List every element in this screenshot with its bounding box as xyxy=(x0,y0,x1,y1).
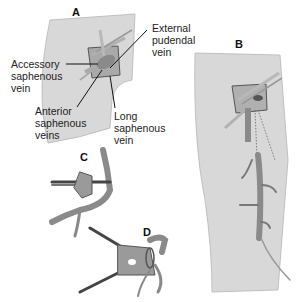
label-anterior-saphenous-veins: Anterior saphenous veins xyxy=(35,105,86,141)
diagram-canvas xyxy=(0,0,297,302)
label-external-pudendal-vein: External pudendal vein xyxy=(152,22,195,58)
panel-d-letter: D xyxy=(143,226,151,238)
label-long-saphenous-vein: Long saphenous vein xyxy=(114,110,165,146)
panel-d-vein-ligation xyxy=(80,228,165,296)
panel-a-letter: A xyxy=(72,6,80,18)
label-accessory-saphenous-vein: Accessory saphenous vein xyxy=(11,58,62,94)
panel-c-letter: C xyxy=(80,151,88,163)
panel-b-letter: B xyxy=(235,38,243,50)
